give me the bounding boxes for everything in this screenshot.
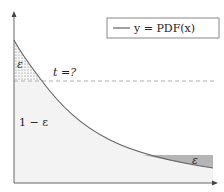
legend: y = PDF(x) [107, 18, 219, 38]
threshold-label: t =? [53, 66, 76, 79]
y-axis-arrow-icon [12, 11, 17, 17]
legend-label: y = PDF(x) [133, 22, 195, 35]
body-region [14, 81, 213, 183]
chart-canvas: y = PDF(x) ε t =? 1 − ε ε [0, 0, 224, 192]
x-axis-arrow-icon [212, 181, 218, 186]
one-minus-epsilon-label: 1 − ε [19, 116, 48, 129]
epsilon-top-label: ε [17, 58, 23, 71]
epsilon-tail-label: ε [192, 154, 198, 167]
